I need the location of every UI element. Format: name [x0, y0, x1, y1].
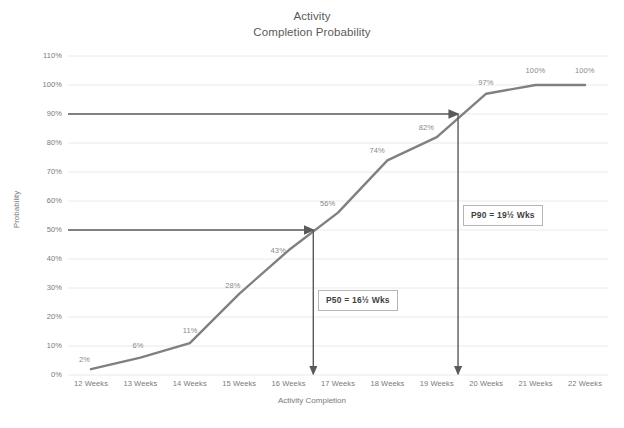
- data-point-label: 43%: [271, 246, 286, 255]
- y-axis-tick-label: 20%: [28, 312, 62, 321]
- callout-p90: P90 = 19½ Wks: [463, 205, 543, 226]
- x-axis-tick-label: 22 Weeks: [555, 379, 615, 388]
- annotation-arrows: [68, 114, 458, 374]
- probability-series: [91, 85, 585, 369]
- y-axis-tick-label: 10%: [28, 341, 62, 350]
- data-point-label: 97%: [478, 78, 493, 87]
- data-point-label: 2%: [79, 355, 90, 364]
- data-point-label: 56%: [320, 199, 335, 208]
- callout-p50: P50 = 16½ Wks: [318, 290, 398, 311]
- y-axis-tick-label: 30%: [28, 283, 62, 292]
- data-point-label: 11%: [183, 326, 198, 335]
- data-point-label: 100%: [575, 66, 595, 75]
- y-axis-tick-label: 0%: [28, 370, 62, 379]
- y-axis-tick-label: 40%: [28, 254, 62, 263]
- data-point-label: 82%: [419, 123, 434, 132]
- data-point-label: 100%: [526, 66, 546, 75]
- data-point-label: 74%: [369, 146, 384, 155]
- data-point-label: 6%: [132, 341, 143, 350]
- completion-probability-chart: Activity Completion Probability Probabil…: [0, 0, 624, 428]
- y-axis-tick-label: 60%: [28, 196, 62, 205]
- y-axis-tick-label: 110%: [28, 51, 62, 60]
- data-point-label: 28%: [225, 281, 240, 290]
- y-axis-tick-label: 90%: [28, 109, 62, 118]
- y-axis-tick-label: 70%: [28, 167, 62, 176]
- y-axis-tick-label: 50%: [28, 225, 62, 234]
- y-axis-tick-label: 100%: [28, 80, 62, 89]
- series-line: [91, 85, 585, 369]
- y-axis-tick-label: 80%: [28, 138, 62, 147]
